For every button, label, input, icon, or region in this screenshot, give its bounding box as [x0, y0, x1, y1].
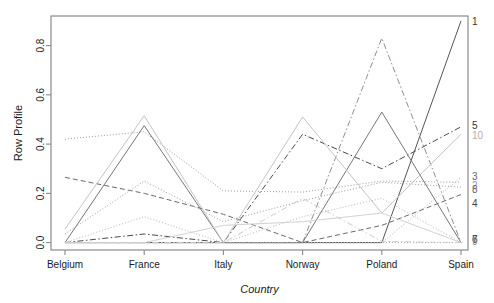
x-tick-label: Italy	[214, 259, 232, 270]
y-tick-label: 0.6	[36, 87, 47, 101]
series-line-2	[65, 132, 461, 192]
y-tick-label: 0.4	[36, 137, 47, 151]
series-label-1: 1	[472, 16, 478, 27]
x-tick-label: Norway	[286, 259, 320, 270]
line-chart: 0.00.20.40.60.8BelgiumFranceItalyNorwayP…	[0, 0, 494, 303]
series-label-4: 4	[472, 198, 478, 209]
data-series-lines	[65, 21, 461, 243]
x-tick-label: Poland	[366, 259, 397, 270]
series-line-13	[65, 213, 461, 243]
axis-tick-labels: 0.00.20.40.60.8BelgiumFranceItalyNorwayP…	[36, 38, 474, 270]
series-edge-labels: 15103284679	[472, 16, 484, 247]
x-tick-label: France	[129, 259, 161, 270]
y-tick-label: 0.8	[36, 38, 47, 52]
series-label-9: 9	[472, 236, 478, 247]
x-axis-title: Country	[240, 283, 280, 295]
y-axis-title: Row Profile	[12, 105, 24, 161]
y-tick-label: 0.2	[36, 186, 47, 200]
plot-border	[51, 16, 468, 250]
x-tick-label: Belgium	[47, 259, 83, 270]
series-label-8: 8	[472, 184, 478, 195]
y-tick-label: 0.0	[36, 235, 47, 249]
x-tick-label: Spain	[448, 259, 474, 270]
series-line-7	[65, 38, 461, 242]
series-label-10: 10	[472, 130, 484, 141]
plot-frame	[51, 16, 468, 250]
series-line-1	[65, 21, 461, 243]
chart-container: 0.00.20.40.60.8BelgiumFranceItalyNorwayP…	[0, 0, 494, 303]
